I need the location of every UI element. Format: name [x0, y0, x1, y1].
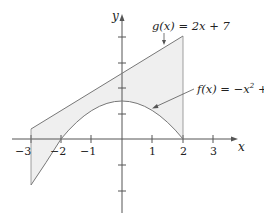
tick-label: −1: [80, 145, 96, 158]
y-axis-arrow-icon: [120, 14, 125, 21]
g-pointer-arrow-icon: [162, 40, 166, 45]
shaded-region: [31, 36, 183, 185]
tick-label: −2: [50, 145, 66, 158]
tick-label: 2: [180, 145, 187, 158]
tick-label: −3: [15, 145, 31, 158]
chart: −3 −2 −1 1 2 3 x y g(x) = 2x + 7 f(x) = …: [0, 0, 264, 220]
tick-label: 1: [149, 145, 156, 158]
x-axis-arrow-icon: [231, 137, 238, 142]
x-axis-label: x: [238, 140, 245, 154]
tick-label: 3: [210, 145, 217, 158]
f-function-label: f(x) = −x2 + 4: [196, 82, 264, 96]
y-axis-label: y: [111, 9, 119, 23]
g-function-label: g(x) = 2x + 7: [152, 19, 231, 33]
